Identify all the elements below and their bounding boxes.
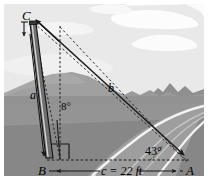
side-label-c: c = 22 ft [101,164,143,178]
vertex-label-B: B [38,163,46,178]
vertex-label-A: A [185,163,194,178]
side-label-b: b [108,81,114,95]
frame-bottom [0,176,208,191]
angle-label-43deg: 43° [145,144,162,158]
frame-left [0,0,4,191]
trigonometry-figure: C B A a b c = 22 ft 8° 43° [0,0,208,191]
frame-right [204,0,208,191]
side-label-a: a [30,88,36,102]
angle-label-8deg: 8° [61,100,71,112]
frame-top [0,0,208,4]
vertex-label-C: C [22,8,31,23]
figure-container: C B A a b c = 22 ft 8° 43° [0,0,208,191]
